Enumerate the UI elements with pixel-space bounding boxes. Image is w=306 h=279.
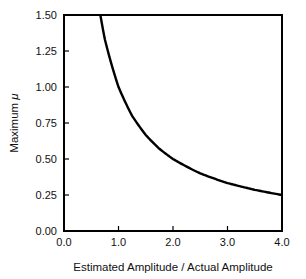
- x-axis-title: Estimated Amplitude / Actual Amplitude: [73, 261, 272, 273]
- y-tick-label: 1.00: [36, 81, 57, 93]
- y-tick-label: 0.50: [36, 153, 57, 165]
- x-tick-label: 0.0: [56, 236, 71, 248]
- x-axis: 0.01.02.03.04.0: [56, 226, 289, 248]
- y-tick-label: 0.00: [36, 225, 57, 237]
- plot-border: [64, 15, 282, 231]
- y-tick-label: 0.25: [36, 189, 57, 201]
- chart: 0.000.250.500.751.001.251.50 0.01.02.03.…: [0, 0, 306, 279]
- y-tick-label: 1.25: [36, 45, 57, 57]
- plot-frame: [64, 15, 282, 231]
- x-tick-label: 2.0: [165, 236, 180, 248]
- x-tick-label: 4.0: [274, 236, 289, 248]
- y-tick-label: 0.75: [36, 117, 57, 129]
- x-tick-label: 1.0: [111, 236, 126, 248]
- y-tick-label: 1.50: [36, 9, 57, 21]
- data-line: [100, 15, 282, 195]
- y-axis-title: Maximum μ: [8, 93, 20, 153]
- x-tick-label: 3.0: [220, 236, 235, 248]
